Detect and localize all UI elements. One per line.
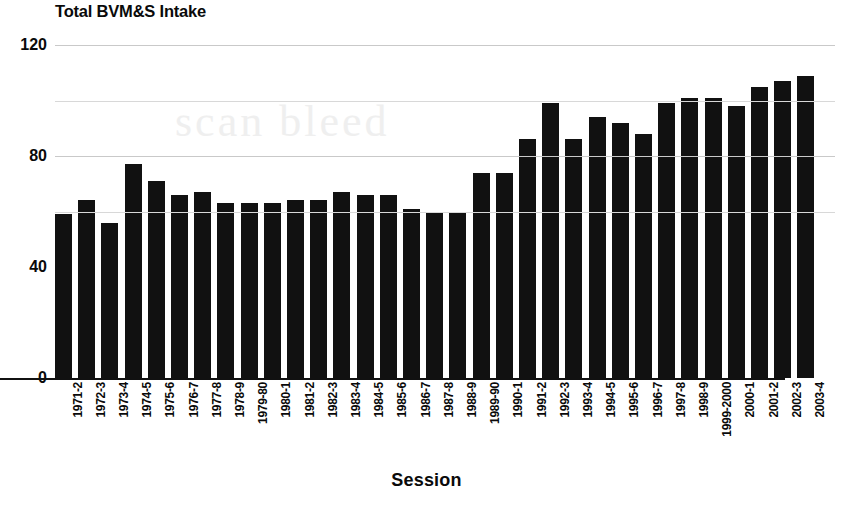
x-axis-tick-label: 1973-4	[116, 382, 133, 418]
x-axis-tick-label: 1993-4	[580, 382, 597, 418]
bar	[565, 139, 582, 378]
x-axis-tick-label: 1990-1	[510, 382, 527, 418]
bar	[101, 223, 118, 378]
bar	[241, 203, 258, 378]
bar	[658, 103, 675, 378]
bar	[519, 139, 536, 378]
x-axis-tick-label: 1981-2	[302, 382, 319, 418]
x-axis-tick-label: 1982-3	[325, 382, 342, 418]
bar	[310, 200, 327, 378]
x-axis-tick-labels: 1971-21972-31973-41974-51975-61976-71977…	[55, 382, 845, 470]
gridline-80	[55, 156, 835, 157]
x-axis-tick-label: 1996-7	[650, 382, 667, 418]
bar	[426, 212, 443, 379]
bar	[612, 123, 629, 378]
bar	[55, 214, 72, 378]
x-axis-tick-label: 1999-2000	[719, 382, 736, 437]
x-axis-tick-label: 1972-3	[93, 382, 110, 418]
gridline-60	[55, 212, 835, 213]
bar	[125, 164, 142, 378]
y-axis-tick-40: 40	[3, 259, 47, 275]
y-axis-tick-120: 120	[3, 37, 47, 53]
x-axis-tick-label: 2002-3	[789, 382, 806, 418]
y-axis-tick-80: 80	[3, 148, 47, 164]
bar	[473, 173, 490, 378]
bars-layer	[55, 40, 835, 378]
bar	[797, 76, 814, 378]
x-axis-tick-label: 2001-2	[766, 382, 783, 418]
plot-area	[55, 40, 835, 378]
bar-chart: scan bleed Total BVM&S Intake 04080120 1…	[0, 0, 853, 512]
x-axis-tick-label: 1978-9	[232, 382, 249, 418]
gridline-120	[55, 45, 835, 46]
x-axis-tick-label: 2000-1	[742, 382, 759, 418]
x-axis-tick-label: 1986-7	[418, 382, 435, 418]
bar	[751, 87, 768, 378]
x-axis-tick-label: 2003-4	[812, 382, 829, 418]
bar	[357, 195, 374, 378]
bar	[635, 134, 652, 378]
x-axis-tick-label: 1979-80	[255, 382, 272, 424]
x-axis-tick-label: 1989-90	[487, 382, 504, 424]
x-axis-tick-label: 1980-1	[278, 382, 295, 418]
x-axis-tick-label: 1988-9	[464, 382, 481, 418]
bar	[728, 106, 745, 378]
y-axis-labels: 04080120	[0, 0, 47, 400]
x-axis-tick-label: 1991-2	[534, 382, 551, 418]
x-axis-tick-label: 1985-6	[394, 382, 411, 418]
x-axis-tick-label: 1995-6	[626, 382, 643, 418]
x-axis-tick-label: 1992-3	[557, 382, 574, 418]
x-axis-tick-label: 1983-4	[348, 382, 365, 418]
bar	[449, 212, 466, 379]
bar	[403, 209, 420, 378]
x-axis-tick-label: 1984-5	[371, 382, 388, 418]
bar	[333, 192, 350, 378]
bar	[194, 192, 211, 378]
bar	[496, 173, 513, 378]
bar	[264, 203, 281, 378]
x-axis-tick-label: 1976-7	[186, 382, 203, 418]
x-axis-tick-label: 1974-5	[139, 382, 156, 418]
x-axis-tick-label: 1998-9	[696, 382, 713, 418]
chart-title: Total BVM&S Intake	[55, 2, 206, 21]
x-axis-line	[0, 378, 785, 380]
bar	[380, 195, 397, 378]
x-axis-tick-label: 1997-8	[673, 382, 690, 418]
x-axis-tick-label: 1994-5	[603, 382, 620, 418]
bar	[78, 200, 95, 378]
gridline-100	[55, 101, 835, 102]
bar	[217, 203, 234, 378]
bar	[171, 195, 188, 378]
x-axis-tick-label: 1987-8	[441, 382, 458, 418]
bar	[705, 98, 722, 378]
bar	[681, 98, 698, 378]
x-axis-tick-label: 1975-6	[162, 382, 179, 418]
bar	[774, 81, 791, 378]
x-axis-tick-label: 1971-2	[70, 382, 87, 418]
x-axis-tick-label: 1977-8	[209, 382, 226, 418]
bar	[542, 103, 559, 378]
x-axis-title: Session	[0, 470, 853, 491]
bar	[287, 200, 304, 378]
